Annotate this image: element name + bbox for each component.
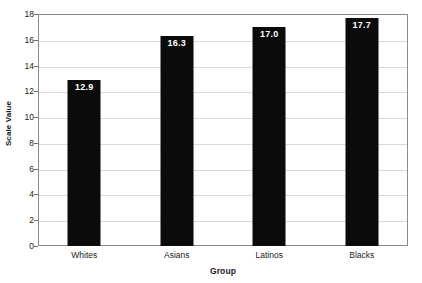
- x-axis-tick-label: Whites: [38, 250, 131, 260]
- y-axis-tick-label: 2: [4, 216, 34, 225]
- y-axis-tick-label: 0: [4, 242, 34, 251]
- y-axis-tick-label: 4: [4, 190, 34, 199]
- bar[interactable]: 16.3: [160, 36, 193, 246]
- y-axis-tick-label: 10: [4, 113, 34, 122]
- y-axis-ticks: 024681012141618: [0, 14, 34, 246]
- bar-slot: 16.3: [131, 14, 224, 246]
- bar-slot: 12.9: [38, 14, 131, 246]
- x-axis-title: Group: [38, 266, 408, 276]
- x-axis-tick-label: Asians: [131, 250, 224, 260]
- y-axis-tick-label: 16: [4, 36, 34, 45]
- bar[interactable]: 17.0: [253, 27, 286, 246]
- y-axis-tick-label: 12: [4, 87, 34, 96]
- y-axis-tick-label: 6: [4, 164, 34, 173]
- y-axis-tick-label: 8: [4, 139, 34, 148]
- y-axis-tick-label: 14: [4, 61, 34, 70]
- bar-value-label: 12.9: [68, 83, 101, 92]
- bar-chart: Scale Value 024681012141618 12.916.317.0…: [0, 0, 422, 283]
- bar-value-label: 17.7: [345, 21, 378, 30]
- y-axis-tick-mark: [34, 246, 38, 247]
- y-axis-tick-label: 18: [4, 10, 34, 19]
- bar-slot: 17.7: [316, 14, 409, 246]
- x-axis-tick-label: Blacks: [316, 250, 409, 260]
- x-axis-tick-label: Latinos: [223, 250, 316, 260]
- x-axis-tick-labels: WhitesAsiansLatinosBlacks: [38, 250, 408, 264]
- bars-layer: 12.916.317.017.7: [38, 14, 408, 246]
- bar[interactable]: 17.7: [345, 18, 378, 246]
- bar[interactable]: 12.9: [68, 80, 101, 246]
- bar-slot: 17.0: [223, 14, 316, 246]
- bar-value-label: 16.3: [160, 39, 193, 48]
- bar-value-label: 17.0: [253, 30, 286, 39]
